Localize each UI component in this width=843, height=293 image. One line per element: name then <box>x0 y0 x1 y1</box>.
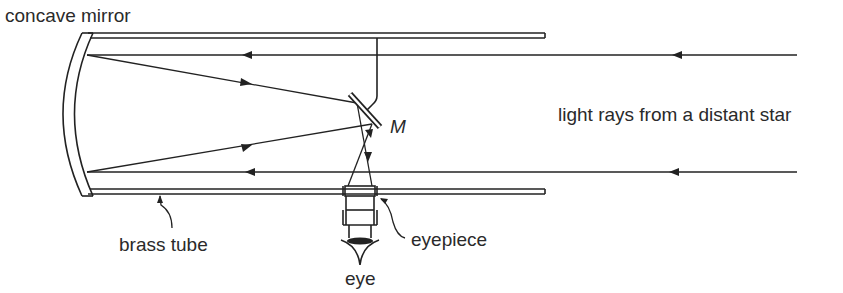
reflected-ray-top <box>87 55 357 103</box>
eye-icon <box>341 238 379 266</box>
eyepiece-pointer <box>381 199 405 238</box>
mirror-m-label: M <box>390 116 406 137</box>
concave-mirror-label: concave mirror <box>5 5 131 26</box>
light-rays-label: light rays from a distant star <box>558 104 792 125</box>
incoming-ray-bottom <box>87 168 797 176</box>
mirror-support-rod <box>367 38 377 110</box>
reflected-ray-bottom <box>87 124 372 172</box>
eyepiece-label: eyepiece <box>411 229 487 250</box>
plane-mirror-m <box>350 94 380 127</box>
brass-tube-top <box>88 33 545 38</box>
brass-tube-label: brass tube <box>119 234 208 255</box>
telescope-diagram: concave mirror M light rays from a dista… <box>0 0 843 293</box>
eye-label: eye <box>345 268 376 289</box>
incoming-ray-top <box>87 51 797 59</box>
brass-tube-bottom <box>88 189 545 194</box>
